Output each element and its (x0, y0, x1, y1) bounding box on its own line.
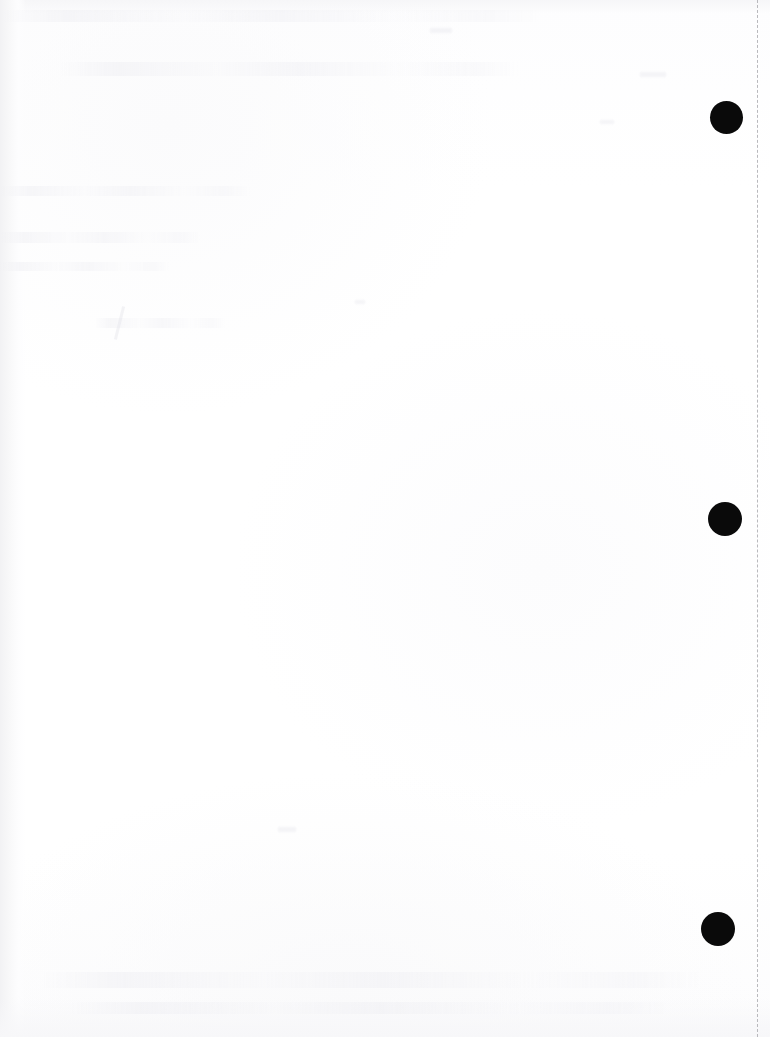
page-bottom-edge-shadow (0, 997, 770, 1037)
hole-punch-mark-1 (710, 101, 743, 134)
scan-edge-dashed-line (757, 0, 758, 1037)
hole-punch-mark-3 (701, 912, 735, 946)
page-top-edge-shadow (0, 0, 770, 14)
scanned-page (0, 0, 770, 1037)
page-left-edge-shadow (0, 0, 26, 1037)
paper-surface (0, 0, 770, 1037)
hole-punch-mark-2 (708, 502, 742, 536)
